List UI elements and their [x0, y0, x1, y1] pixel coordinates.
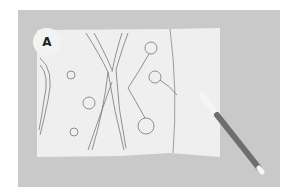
photo: A	[0, 0, 295, 193]
marker-pen	[0, 0, 295, 193]
